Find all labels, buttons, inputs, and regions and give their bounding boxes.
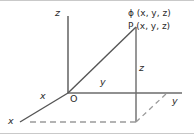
dashed-projection-line <box>136 93 167 122</box>
origin-label: O <box>70 94 77 104</box>
z-segment-label: z <box>139 63 144 73</box>
z-axis-label: z <box>55 8 60 18</box>
y-segment-label: y <box>100 77 106 87</box>
phi-point-label: ϕ (x, y, z) <box>128 9 171 18</box>
coordinate-system-figure: z y x O y x z ϕ (x, y, z) P (x, y, z) <box>0 0 194 134</box>
y-axis-label: y <box>172 96 178 106</box>
p-point-label: P (x, y, z) <box>128 22 170 31</box>
x-axis-label: x <box>8 116 14 126</box>
x-segment-label: x <box>40 91 46 101</box>
